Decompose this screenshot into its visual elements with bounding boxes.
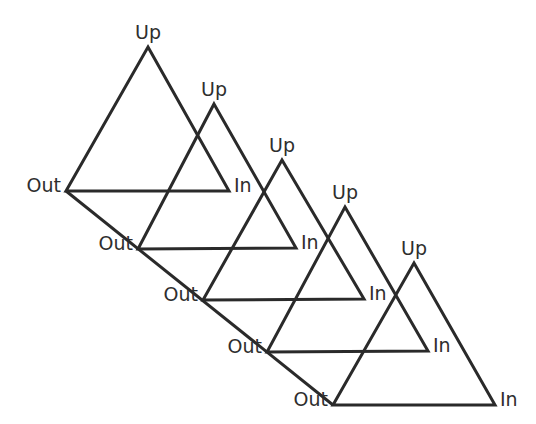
in-label-5: In [500, 388, 518, 410]
in-label-4: In [433, 334, 451, 356]
triangle-cascade-diagram: UpOutInUpOutInUpOutInUpOutInUpOutIn [0, 0, 536, 424]
out-label-3: Out [164, 283, 198, 305]
up-label-3: Up [269, 134, 295, 156]
triangles-layer [66, 47, 495, 405]
up-label-5: Up [401, 237, 427, 259]
up-label-2: Up [201, 78, 227, 100]
in-label-3: In [369, 282, 387, 304]
triangle-5 [333, 263, 495, 405]
out-label-2: Out [99, 232, 133, 254]
up-label-1: Up [135, 21, 161, 43]
in-label-1: In [234, 174, 252, 196]
out-label-1: Out [27, 174, 61, 196]
out-label-4: Out [228, 335, 262, 357]
out-label-5: Out [294, 388, 328, 410]
up-label-4: Up [332, 181, 358, 203]
in-label-2: In [301, 231, 319, 253]
